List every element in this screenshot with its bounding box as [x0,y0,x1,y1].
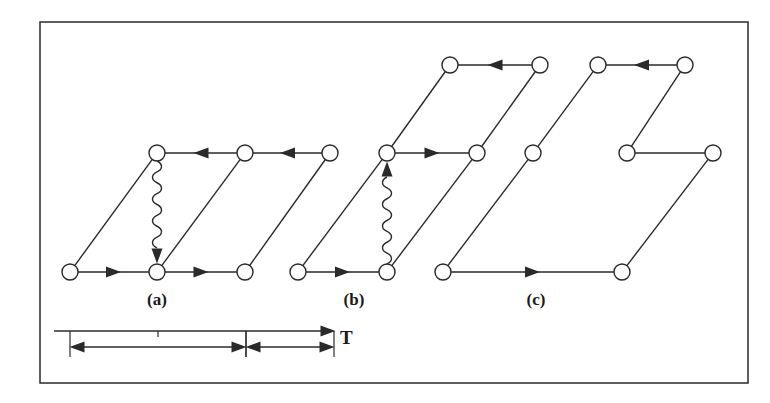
arrow-edge [165,267,237,278]
arrow-edge [606,60,677,71]
dimension-arrowhead-icon [320,342,335,353]
node-circle [532,57,548,73]
arrowhead-icon [194,267,209,278]
panel-label-a: (a) [147,290,167,310]
node-circle [677,57,693,73]
time-axis [54,326,336,358]
panel-label-c: (c) [527,290,546,310]
arrowhead-icon [634,60,649,71]
figure-frame [40,22,748,383]
node-circle [525,145,541,161]
node-circle [614,264,630,280]
arrow-edge [451,267,614,278]
dimension-arrowhead-icon [232,342,247,353]
node-circle [379,145,395,161]
node-circle [619,145,635,161]
dimension-arrowhead-icon [70,342,85,353]
axis-arrowhead-icon [321,326,336,337]
arrow-edge [165,148,237,159]
node-circle [322,145,338,161]
line-edge [538,71,593,146]
figure: (a) (b) (c) T [0,0,770,403]
arrowhead-icon [382,162,393,177]
line-edge [162,159,240,265]
arrowhead-icon [488,60,503,71]
time-axis-label: T [340,327,353,349]
node-circle [705,145,721,161]
node-circle [442,57,458,73]
dimension-arrowhead-icon [246,342,261,353]
arrow-edge [78,267,149,278]
line-edge [75,159,153,265]
edges [75,60,708,278]
panel-label-b: (b) [344,290,365,310]
arrow-edge [395,148,469,159]
arrow-edge [253,148,322,159]
node-circle [149,264,165,280]
node-circle [290,264,306,280]
arrowhead-icon [194,148,209,159]
node-circle [237,264,253,280]
arrowhead-icon [280,148,295,159]
node-circle [435,264,451,280]
node-circle [149,145,165,161]
line-edge [392,72,446,147]
wavy-arrow-edge [382,162,393,265]
arrow-edge [306,267,379,278]
line-edge [627,159,708,265]
wavy-arrow-edge [152,161,163,264]
line-edge [631,72,680,147]
arrow-edge [458,60,532,71]
node-circle [469,145,485,161]
diagram-canvas [0,0,770,403]
arrowhead-icon [152,249,163,264]
node-circle [379,264,395,280]
arrowhead-icon [106,267,121,278]
arrowhead-icon [335,267,350,278]
arrowhead-icon [525,267,540,278]
line-edge [482,72,536,147]
node-circle [590,57,606,73]
arrowhead-icon [425,148,440,159]
node-circle [62,264,78,280]
node-circle [237,145,253,161]
